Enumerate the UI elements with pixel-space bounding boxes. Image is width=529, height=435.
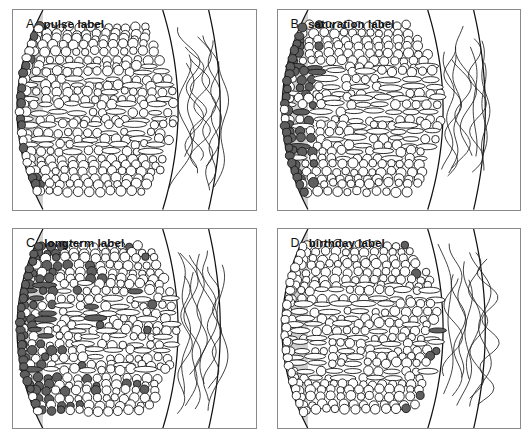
panel-d-frame: D birthday label xyxy=(277,228,522,430)
panel-b-drawing xyxy=(278,10,521,210)
panel-b-frame: B saturation label xyxy=(277,9,522,211)
panel-c-drawing xyxy=(13,229,256,429)
panel-c: C longterm label xyxy=(0,219,265,435)
panel-grid: A pulse label B saturation label C longt… xyxy=(0,0,529,435)
panel-d: D birthday label xyxy=(265,219,529,435)
panel-a-frame: A pulse label xyxy=(12,9,257,211)
figure-root: A pulse label B saturation label C longt… xyxy=(0,0,529,435)
panel-a-drawing xyxy=(13,10,256,210)
panel-c-frame: C longterm label xyxy=(12,228,257,430)
panel-b: B saturation label xyxy=(265,0,529,219)
panel-d-drawing xyxy=(278,229,521,429)
panel-a: A pulse label xyxy=(0,0,265,219)
